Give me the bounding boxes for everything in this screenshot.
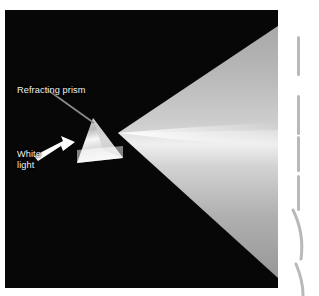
margin-marks [278,0,319,296]
white-light-label: Whitelight [17,149,41,170]
annotation-pointers [5,10,278,288]
figure-page: Refracting prism Whitelight [0,0,319,296]
margin-arc-1 [293,210,302,259]
margin-arc-2 [296,264,303,295]
refracting-prism-label: Refracting prism [17,85,85,96]
margin-arcs [278,0,319,296]
white-light-label-line1: White [17,149,41,159]
prism-photograph: Refracting prism Whitelight [5,10,278,288]
photo-content: Refracting prism Whitelight [5,10,278,288]
white-light-label-line2: light [17,160,34,170]
